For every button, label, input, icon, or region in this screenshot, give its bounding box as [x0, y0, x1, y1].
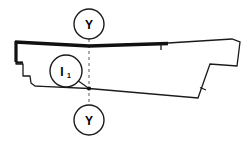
section-marker-bottom[interactable]: Y: [74, 105, 104, 135]
profile-section-drawing: Y Y I 1: [0, 0, 250, 141]
section-marker-top[interactable]: Y: [74, 9, 104, 39]
section-marker-bottom-label: Y: [85, 114, 93, 128]
technical-drawing-canvas: Y Y I 1: [0, 0, 250, 141]
drawing-background: [0, 0, 250, 141]
detail-callout-i1[interactable]: I 1: [50, 55, 82, 87]
detail-callout-i1-subscript: 1: [67, 72, 71, 79]
detail-callout-i1-label: I: [60, 65, 63, 79]
section-intersection-point: [87, 86, 91, 90]
section-marker-top-label: Y: [85, 18, 93, 32]
detail-callout-i1-circle: [50, 55, 82, 87]
